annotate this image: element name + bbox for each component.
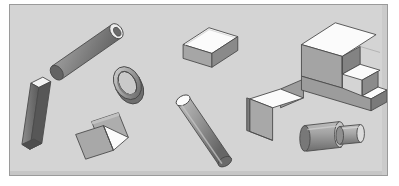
- scene-panel: [9, 4, 388, 176]
- scene-canvas: [10, 5, 387, 175]
- screenshot-stage: [0, 0, 399, 186]
